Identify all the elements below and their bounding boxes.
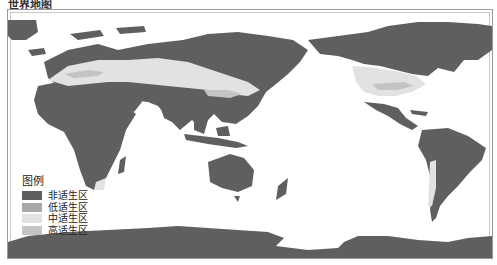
legend-label: 低适生区 bbox=[48, 202, 88, 213]
legend-swatch-low bbox=[22, 203, 42, 212]
legend-item-low: 低适生区 bbox=[22, 202, 88, 214]
map-frame: 图例 非适生区 低适生区 中适生区 高适生区 bbox=[7, 9, 493, 259]
legend-label: 非适生区 bbox=[48, 190, 88, 201]
legend-swatch-medium bbox=[22, 214, 42, 223]
legend-item-high: 高适生区 bbox=[22, 225, 88, 237]
legend-item-unsuitable: 非适生区 bbox=[22, 190, 88, 202]
legend-label: 中适生区 bbox=[48, 213, 88, 224]
legend-label: 高适生区 bbox=[48, 225, 88, 236]
map-legend: 图例 非适生区 低适生区 中适生区 高适生区 bbox=[22, 172, 88, 236]
legend-title: 图例 bbox=[22, 172, 88, 188]
legend-item-medium: 中适生区 bbox=[22, 213, 88, 225]
legend-swatch-unsuitable bbox=[22, 191, 42, 200]
legend-swatch-high bbox=[22, 226, 42, 235]
